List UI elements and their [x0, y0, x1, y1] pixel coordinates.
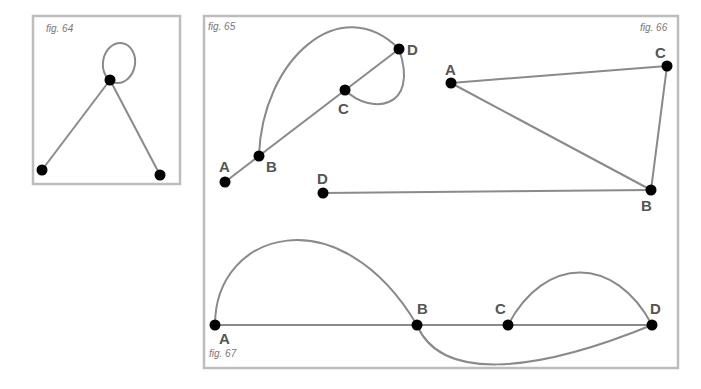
label-b: B	[266, 158, 277, 175]
vertex-c	[662, 61, 673, 72]
label-b: B	[417, 300, 428, 317]
label-c: C	[338, 100, 349, 117]
label-a: A	[219, 158, 230, 175]
figure-64: fig. 64	[33, 16, 180, 184]
label-b: B	[641, 197, 652, 214]
figure-64-caption: fig. 64	[46, 23, 74, 34]
vertex-c	[340, 85, 351, 96]
edge-c-d-loop	[345, 49, 404, 104]
vertex	[105, 75, 116, 86]
vertex-d	[647, 320, 658, 331]
vertex-d	[394, 44, 405, 55]
edge-c-d-arc	[508, 273, 652, 326]
edge	[110, 80, 160, 175]
vertex-a	[446, 78, 457, 89]
figure-67-caption: fig. 67	[209, 348, 237, 359]
graph-figures: fig. 64 fig. 65 A B C D fig. 66 A C	[0, 0, 701, 389]
vertex-b	[646, 185, 657, 196]
figure-67: fig. 67 A B C D	[209, 240, 661, 364]
vertex-d	[318, 188, 329, 199]
figure-66-caption: fig. 66	[640, 22, 668, 33]
edge-b-d-arc	[417, 325, 652, 364]
edge-a-b-arc	[215, 240, 417, 325]
label-a: A	[219, 330, 230, 347]
label-d: D	[407, 41, 418, 58]
figure-64-frame	[33, 16, 180, 184]
edge-a-d	[225, 49, 399, 182]
label-c: C	[655, 44, 666, 61]
edge-c-b	[651, 66, 667, 190]
vertex-b	[254, 151, 265, 162]
edge-a-c	[451, 66, 667, 83]
vertex	[155, 170, 166, 181]
figure-65-caption: fig. 65	[208, 21, 236, 32]
label-a: A	[445, 61, 456, 78]
vertex-a	[220, 177, 231, 188]
label-d: D	[317, 170, 328, 187]
edge-d-b	[323, 190, 651, 193]
vertex-c	[503, 320, 514, 331]
edge	[42, 80, 110, 170]
label-d: D	[650, 300, 661, 317]
label-c: C	[495, 300, 506, 317]
edge-a-b	[451, 83, 651, 190]
vertex	[37, 165, 48, 176]
vertex-a	[210, 320, 221, 331]
figure-65: fig. 65 A B C D	[208, 21, 418, 188]
figure-66: fig. 66 A C B D	[317, 22, 673, 214]
vertex-b	[412, 320, 423, 331]
edge-b-d-arc	[259, 27, 399, 156]
